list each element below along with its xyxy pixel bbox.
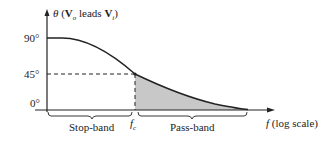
y-axis-arrow-icon xyxy=(45,9,50,16)
pass-band-shading xyxy=(135,74,248,110)
x-axis-label: f (log scale) xyxy=(266,118,318,129)
stop-band-label: Stop-band xyxy=(69,122,114,133)
fc-label: fc xyxy=(130,118,136,132)
x-axis-arrow-icon xyxy=(267,108,275,113)
tick-label-45: 45° xyxy=(24,69,39,80)
pass-band-label: Pass-band xyxy=(170,122,215,133)
stop-band-brace xyxy=(48,112,132,119)
fc-point xyxy=(133,72,136,75)
tick-label-90: 90° xyxy=(24,33,39,44)
pass-band-brace xyxy=(138,112,247,119)
tick-label-0: 0° xyxy=(30,98,40,109)
y-axis-label: θ (Vo leads Vi) xyxy=(53,8,118,22)
